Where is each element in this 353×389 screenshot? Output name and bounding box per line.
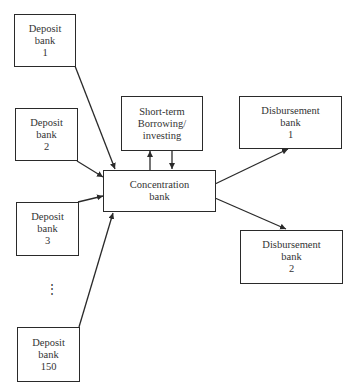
- label-line: bank: [281, 251, 301, 263]
- deposit-bank-2-box: Deposit bank 2: [15, 108, 78, 161]
- label-line: 1: [42, 47, 47, 59]
- label-line: 150: [41, 361, 57, 373]
- label-line: bank: [149, 191, 169, 203]
- disbursement-bank-2-box: Disbursement bank 2: [240, 230, 343, 284]
- label-line: Deposit: [32, 337, 65, 349]
- label-line: 1: [288, 129, 293, 141]
- cash-concentration-diagram: Deposit bank 1 Deposit bank 2 Deposit ba…: [0, 0, 353, 389]
- label-line: Short-term: [139, 106, 185, 118]
- deposit-bank-150-box: Deposit bank 150: [17, 327, 80, 382]
- label-line: bank: [280, 117, 300, 129]
- label-line: bank: [36, 129, 56, 141]
- disbursement-bank-1-box: Disbursement bank 1: [239, 96, 342, 149]
- label-line: bank: [35, 35, 55, 47]
- label-line: 2: [44, 141, 49, 153]
- label-line: Deposit: [30, 117, 63, 129]
- deposit-bank-3-box: Deposit bank 3: [16, 202, 79, 256]
- concentration-bank-box: Concentration bank: [103, 170, 216, 212]
- deposit-bank-1-box: Deposit bank 1: [14, 14, 76, 67]
- ellipsis-vertical: ⋮: [46, 286, 52, 293]
- label-line: 3: [45, 235, 50, 247]
- label-line: Disbursement: [262, 239, 320, 251]
- label-line: Concentration: [130, 179, 189, 191]
- short-term-borrowing-investing-box: Short-term Borrowing/ investing: [121, 96, 203, 151]
- label-line: Deposit: [31, 211, 64, 223]
- label-line: bank: [38, 349, 58, 361]
- label-line: Deposit: [29, 23, 62, 35]
- label-line: Borrowing/: [138, 118, 186, 130]
- label-line: 2: [289, 263, 294, 275]
- label-line: investing: [143, 130, 182, 142]
- label-line: Disbursement: [261, 105, 319, 117]
- label-line: bank: [37, 223, 57, 235]
